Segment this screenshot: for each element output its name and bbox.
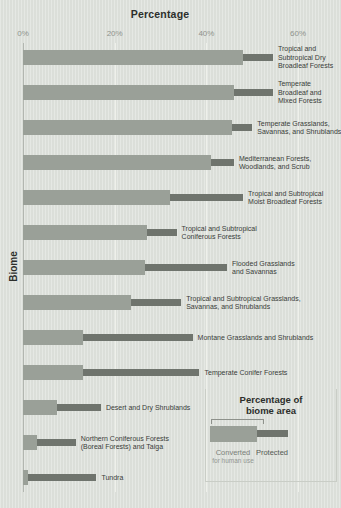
bar-protected xyxy=(145,264,228,271)
bar-label: Tropical and Subtropical Grasslands,Sava… xyxy=(186,295,301,312)
x-tick-label: 0% xyxy=(8,29,38,38)
legend-title: Percentage of biome area xyxy=(206,395,336,416)
chart-title: Percentage xyxy=(0,8,320,20)
bar-label: Tropical andSubtropical DryBroadleaf For… xyxy=(278,45,333,71)
bar-label: Mediterranean Forests,Woodlands, and Scr… xyxy=(239,155,311,172)
x-tick-label: 20% xyxy=(100,29,130,38)
bar-converted xyxy=(23,330,83,345)
bar-converted xyxy=(23,260,145,275)
bar-label: Desert and Dry Shrublands xyxy=(106,404,190,413)
bar-converted xyxy=(23,435,37,450)
bar-protected xyxy=(83,334,193,341)
bar-label: Tropical and SubtropicalConiferous Fores… xyxy=(182,225,257,242)
x-tick-label: 40% xyxy=(191,29,221,38)
bar-converted xyxy=(23,295,131,310)
y-axis-label: Biome xyxy=(8,242,19,292)
bar-label: Tropical and SubtropicalMoist Broadleaf … xyxy=(248,190,323,207)
bar-label: Temperate Grasslands,Savannas, and Shrub… xyxy=(257,120,341,137)
legend-converted-swatch xyxy=(210,426,257,442)
legend-converted-sublabel: for human use xyxy=(200,457,266,464)
biome-percentage-chart: Percentage Biome 0%20%40%60%Tropical and… xyxy=(0,0,341,508)
bar-protected xyxy=(57,404,101,411)
bar-label: Northern Coniferous Forests(Boreal Fores… xyxy=(81,435,169,452)
bar-converted xyxy=(23,190,170,205)
bar-converted xyxy=(23,50,243,65)
bar-converted xyxy=(23,155,211,170)
bar-protected xyxy=(232,124,253,131)
legend-title-line2: biome area xyxy=(246,405,296,416)
bar-protected xyxy=(37,439,76,446)
bar-converted xyxy=(23,225,147,240)
bar-converted xyxy=(23,120,232,135)
bar-label: TemperateBroadleaf andMixed Forests xyxy=(278,80,322,106)
bar-protected xyxy=(131,299,181,306)
bar-protected xyxy=(234,89,273,96)
bar-protected xyxy=(211,159,234,166)
legend-protected-swatch xyxy=(257,430,288,437)
bar-converted xyxy=(23,365,83,380)
bar-label: Flooded Grasslandsand Savannas xyxy=(232,260,295,277)
bar-label: Montane Grasslands and Shrublands xyxy=(198,334,314,343)
legend-protected-label: Protected xyxy=(242,448,302,457)
legend-bracket xyxy=(211,419,264,424)
bar-protected xyxy=(147,229,177,236)
bar-converted xyxy=(23,85,234,100)
x-tick-label: 60% xyxy=(283,29,313,38)
legend: Percentage of biome area Converted Prote… xyxy=(205,389,337,482)
bar-label: Tundra xyxy=(101,474,123,483)
bar-protected xyxy=(28,474,97,481)
bar-protected xyxy=(170,194,243,201)
bar-label: Temperate Conifer Forests xyxy=(205,369,288,378)
bar-protected xyxy=(243,54,273,61)
bar-converted xyxy=(23,400,57,415)
bar-protected xyxy=(83,369,200,376)
legend-title-line1: Percentage of xyxy=(240,394,303,405)
